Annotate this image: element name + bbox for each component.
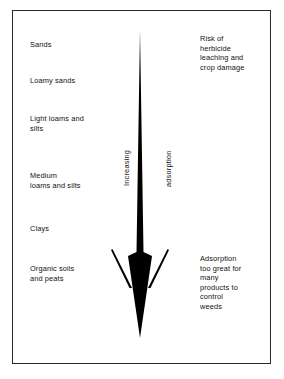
- soil-label-clays: Clays: [30, 224, 118, 234]
- soil-label-light-loams-and-silts: Light loams and silts: [30, 114, 118, 133]
- figure-container: Sands Loamy sands Light loams and silts …: [0, 0, 284, 379]
- soil-label-medium-loams-and-silts: Medium loams and silts: [30, 171, 118, 190]
- note-adsorption-too-great: Adsorption too great for many products t…: [200, 254, 274, 312]
- arrow-barb-right: [148, 249, 169, 288]
- axis-label-increasing: Increasing: [122, 150, 131, 186]
- axis-label-adsorption: adsorption: [164, 150, 173, 187]
- soil-label-sands: Sands: [30, 40, 118, 50]
- note-leaching-risk: Risk of herbicide leaching and crop dama…: [200, 34, 274, 72]
- soil-label-loamy-sands: Loamy sands: [30, 76, 118, 86]
- arrow-shaft-and-head: [128, 30, 152, 338]
- soil-label-organic-soils-and-peats: Organic soils and peats: [30, 264, 118, 283]
